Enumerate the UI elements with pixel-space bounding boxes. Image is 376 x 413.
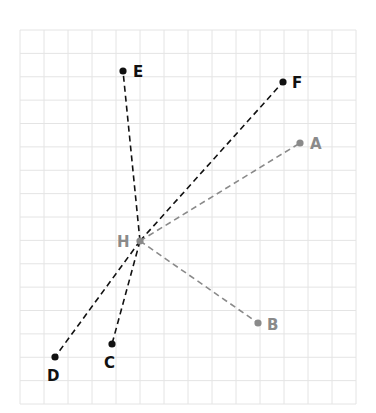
segment-he <box>123 71 140 241</box>
point-a-dot-icon <box>296 139 303 146</box>
point-h-dot-icon <box>136 237 143 244</box>
point-c-label: C <box>104 354 115 372</box>
point-f-label: F <box>292 74 302 92</box>
point-e-label: E <box>133 63 143 81</box>
geometry-diagram: ABCDEFH <box>0 0 376 413</box>
point-a-label: A <box>310 135 322 153</box>
point-c-dot-icon <box>108 340 115 347</box>
point-d-dot-icon <box>51 353 58 360</box>
point-b-label: B <box>267 316 278 334</box>
point-b-dot-icon <box>254 319 261 326</box>
point-d-label: D <box>47 367 59 385</box>
point-f-dot-icon <box>279 78 286 85</box>
points: ABCDEFH <box>47 63 322 385</box>
point-h-label: H <box>117 233 130 251</box>
grid-background <box>20 30 356 404</box>
point-e-dot-icon <box>119 67 126 74</box>
